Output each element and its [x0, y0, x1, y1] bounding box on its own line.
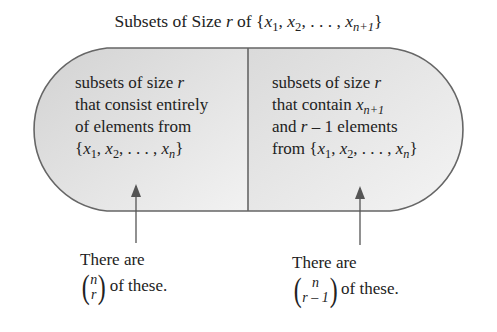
right-count-note: There are ( nr – 1 ) of these. [292, 253, 399, 307]
right-set: from {x1, x2, . . . , xn} [272, 138, 418, 160]
binomial-n-r: ( nr ) [80, 270, 108, 304]
left-box-text: subsets of size r that consist entirely … [75, 72, 208, 160]
right-box-text: subsets of size r that contain xn+1 and … [272, 72, 418, 160]
binomial-n-r-minus-1: ( nr – 1 ) [292, 273, 339, 307]
capsule-diagram [0, 0, 497, 332]
left-set: {x1, x2, . . . , xn} [75, 138, 208, 160]
left-count-note: There are ( nr ) of these. [80, 250, 167, 304]
